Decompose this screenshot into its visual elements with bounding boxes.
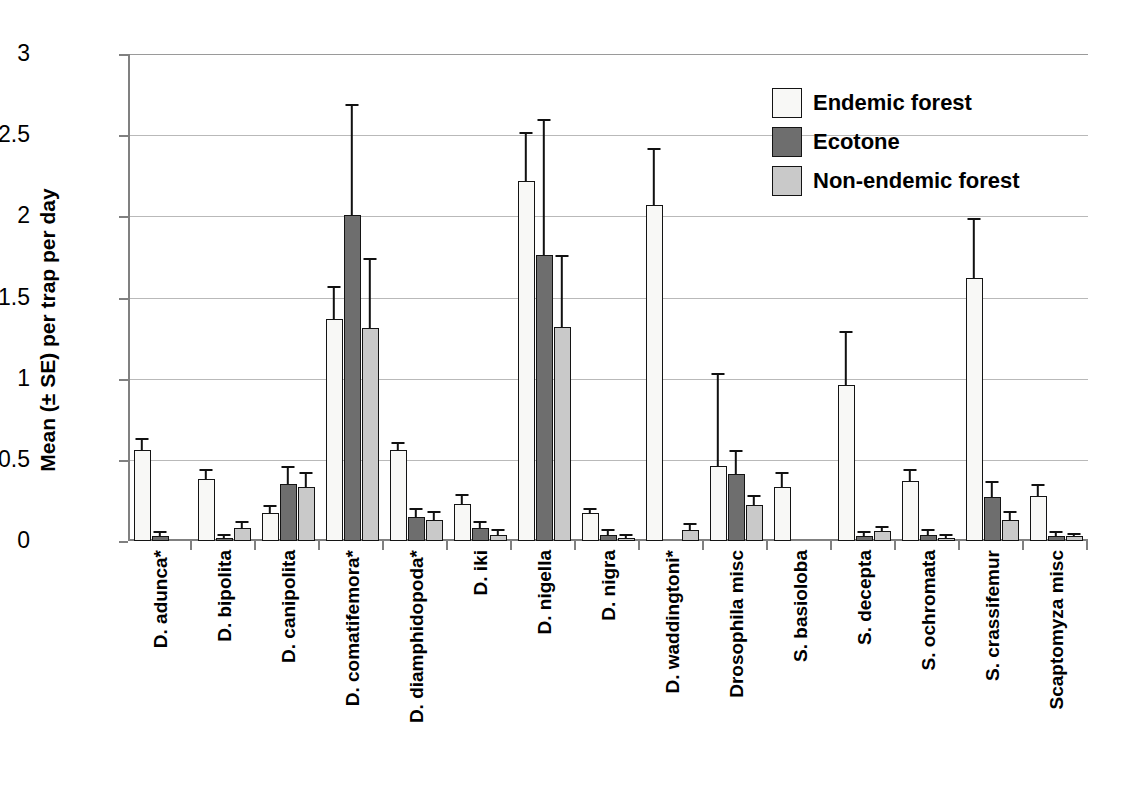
error-bar-cap <box>602 529 615 531</box>
bar[interactable] <box>618 538 635 541</box>
bar-slot <box>390 54 407 541</box>
error-bar <box>287 468 289 484</box>
bar[interactable] <box>408 517 425 541</box>
x-label-cell: D. adunca* <box>128 550 192 808</box>
bar[interactable] <box>682 530 699 541</box>
bar-slot <box>1066 54 1083 541</box>
error-bar <box>1009 513 1011 519</box>
x-tick-mark <box>958 541 960 550</box>
error-bar-cap <box>328 286 341 288</box>
bar[interactable] <box>856 536 873 541</box>
x-tick-label: D. comatifemora* <box>343 550 362 706</box>
error-bar-cap <box>136 438 149 440</box>
bar[interactable] <box>490 535 507 541</box>
bar[interactable] <box>1066 536 1083 541</box>
bar[interactable] <box>902 481 919 541</box>
bar[interactable] <box>280 484 297 541</box>
error-bar <box>991 483 993 498</box>
bar[interactable] <box>298 487 315 541</box>
error-bar <box>269 507 271 513</box>
bar[interactable] <box>984 497 1001 541</box>
error-bar-cap <box>858 531 871 533</box>
error-bar-cap <box>428 511 441 513</box>
bar[interactable] <box>938 538 955 541</box>
bar[interactable] <box>344 215 361 541</box>
error-bar <box>141 440 143 450</box>
bar[interactable] <box>1048 536 1065 541</box>
bar[interactable] <box>426 520 443 541</box>
y-tick-mark <box>119 298 128 300</box>
bar-slot <box>234 54 251 541</box>
bar[interactable] <box>774 487 791 541</box>
bar-slot <box>454 54 471 541</box>
bar-slot <box>518 54 535 541</box>
error-bar-cap <box>584 508 597 510</box>
bar[interactable] <box>838 385 855 541</box>
bar[interactable] <box>728 474 745 541</box>
x-tick-mark <box>894 541 896 550</box>
bar-slot <box>554 54 571 541</box>
bar[interactable] <box>234 528 251 541</box>
y-tick-label: 1.5 <box>0 286 30 309</box>
error-bar <box>589 510 591 513</box>
bar[interactable] <box>554 327 571 541</box>
y-tick-label: 0.5 <box>0 448 30 471</box>
error-bar <box>863 533 865 536</box>
x-tick-mark <box>382 541 384 550</box>
legend-item[interactable]: Endemic forest <box>772 86 1020 120</box>
x-tick-label: S. ochromata <box>919 550 938 670</box>
bar-slot <box>298 54 315 541</box>
bar[interactable] <box>216 538 233 541</box>
bar[interactable] <box>536 255 553 541</box>
x-tick-label: Drosophila misc <box>727 550 746 698</box>
x-label-cell: S. basioloba <box>768 550 832 808</box>
y-tick-label: 2 <box>0 204 30 227</box>
error-bar <box>1055 533 1057 536</box>
y-tick-label: 0 <box>0 529 30 552</box>
bar-group <box>128 54 192 541</box>
error-bar-cap <box>300 472 313 474</box>
bar[interactable] <box>152 536 169 541</box>
x-label-cell: Drosophila misc <box>704 550 768 808</box>
bar[interactable] <box>920 535 937 541</box>
bar[interactable] <box>966 278 983 541</box>
error-bar <box>543 121 545 256</box>
legend-item[interactable]: Non-endemic forest <box>772 164 1020 198</box>
bar[interactable] <box>134 450 151 541</box>
bar-slot <box>646 54 663 541</box>
bar[interactable] <box>600 535 617 541</box>
bar[interactable] <box>262 513 279 541</box>
error-bar <box>241 523 243 528</box>
bar[interactable] <box>746 505 763 541</box>
error-bar-cap <box>904 469 917 471</box>
error-bar-cap <box>1050 531 1063 533</box>
x-label-cell: D. waddingtoni* <box>640 550 704 808</box>
x-tick-mark <box>702 541 704 550</box>
bar[interactable] <box>1002 520 1019 541</box>
error-bar-cap <box>392 442 405 444</box>
error-bar <box>461 496 463 504</box>
x-label-cell: S. decepta <box>832 550 896 808</box>
error-bar <box>625 536 627 538</box>
bar[interactable] <box>582 513 599 541</box>
bar[interactable] <box>198 479 215 541</box>
bar[interactable] <box>454 504 471 541</box>
bar[interactable] <box>518 181 535 541</box>
error-bar-cap <box>1032 484 1045 486</box>
bar[interactable] <box>1030 496 1047 541</box>
bar[interactable] <box>326 319 343 541</box>
x-tick-mark <box>446 541 448 550</box>
bar[interactable] <box>362 328 379 541</box>
bar-slot <box>682 54 699 541</box>
bar[interactable] <box>646 205 663 541</box>
legend: Endemic forestEcotoneNon-endemic forest <box>772 86 1020 203</box>
x-tick-mark <box>638 541 640 550</box>
x-label-cell: D. comatifemora* <box>320 550 384 808</box>
bar[interactable] <box>390 450 407 541</box>
error-bar-cap <box>922 529 935 531</box>
legend-item[interactable]: Ecotone <box>772 125 1020 159</box>
bar[interactable] <box>874 531 891 541</box>
bar[interactable] <box>710 466 727 541</box>
bar-group <box>640 54 704 541</box>
bar[interactable] <box>472 528 489 541</box>
